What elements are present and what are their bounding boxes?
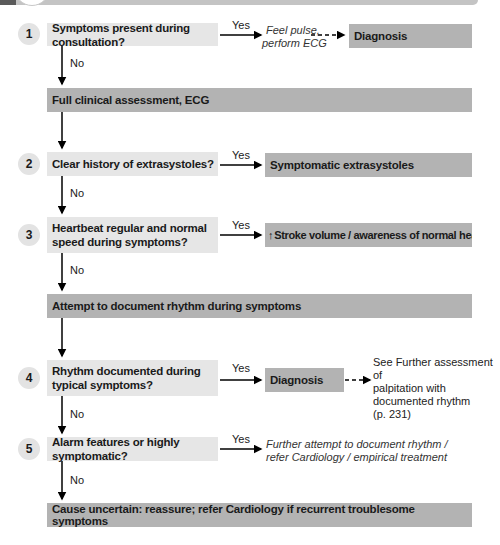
action-5-line1: Further attempt to document rhythm /	[266, 438, 448, 451]
action-1-line2: perform ECG	[262, 37, 327, 50]
outcome-symptomatic-extrasystoles: Symptomatic extrasystoles	[265, 153, 472, 177]
reference-line2: palpitation with	[373, 382, 500, 395]
step-number-4: 4	[18, 367, 40, 389]
outcome-diagnosis-1: Diagnosis	[349, 24, 472, 48]
action-1-line1: Feel pulse,	[262, 24, 327, 37]
up-arrow-icon: ↑	[268, 229, 273, 241]
no-label-2: No	[70, 187, 84, 199]
outcome-diagnosis-4: Diagnosis	[265, 368, 344, 392]
full-assessment-box: Full clinical assessment, ECG	[47, 88, 472, 112]
action-5: Further attempt to document rhythm / ref…	[266, 438, 448, 464]
reference-line4: (p. 231)	[373, 408, 500, 421]
question-3-line2: speed during symptoms?	[52, 235, 188, 249]
question-5: Alarm features or highly symptomatic?	[47, 437, 218, 461]
yes-label-2: Yes	[232, 149, 250, 161]
action-1: Feel pulse, perform ECG	[262, 24, 327, 50]
question-1: Symptoms present during consultation?	[47, 23, 218, 46]
question-4-line1: Rhythm documented during	[52, 364, 201, 378]
action-5-line2: refer Cardiology / empirical treatment	[266, 451, 448, 464]
step-number-3: 3	[18, 224, 40, 246]
reference-line3: documented rhythm	[373, 395, 500, 408]
no-label-3: No	[70, 264, 84, 276]
yes-label-3: Yes	[232, 219, 250, 231]
reference-line1: See Further assessment of	[373, 356, 500, 382]
step-number-5: 5	[18, 438, 40, 460]
no-label-4: No	[70, 408, 84, 420]
outcome-stroke-volume-text: Stroke volume / awareness of normal hear…	[274, 229, 472, 241]
question-4-line2: typical symptoms?	[52, 378, 153, 392]
question-2: Clear history of extrasystoles?	[47, 152, 218, 176]
no-label-5: No	[70, 474, 84, 486]
step-number-2: 2	[18, 153, 40, 175]
reference-note: See Further assessment of palpitation wi…	[373, 356, 500, 421]
yes-label-4: Yes	[232, 362, 250, 374]
yes-label-1: Yes	[232, 19, 250, 31]
question-4: Rhythm documented during typical symptom…	[47, 360, 218, 396]
question-3: Heartbeat regular and normal speed durin…	[47, 217, 218, 253]
final-outcome-box: Cause uncertain: reassure; refer Cardiol…	[47, 503, 472, 527]
yes-label-5: Yes	[232, 433, 250, 445]
outcome-stroke-volume: ↑ Stroke volume / awareness of normal he…	[265, 223, 472, 247]
step-number-1: 1	[18, 23, 40, 45]
attempt-document-box: Attempt to document rhythm during sympto…	[47, 294, 472, 318]
question-3-line1: Heartbeat regular and normal	[52, 221, 207, 235]
no-label-1: No	[70, 57, 84, 69]
